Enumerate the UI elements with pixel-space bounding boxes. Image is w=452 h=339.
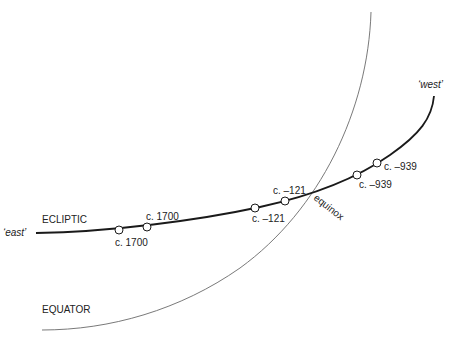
marker-label: c. 1700 [146, 211, 179, 222]
marker-circle [251, 204, 259, 212]
marker-label: c. –939 [384, 161, 417, 172]
marker-label: c. –121 [273, 185, 306, 196]
east-label: ‘east’ [3, 227, 27, 238]
west-label: ‘west’ [418, 79, 444, 90]
marker-label: c. 1700 [115, 237, 148, 248]
marker-label: c. –121 [252, 213, 285, 224]
ecliptic-label: ECLIPTIC [42, 214, 87, 225]
equinox-label: equinox [312, 192, 346, 222]
marker-circle [115, 226, 123, 234]
ecliptic-equator-diagram: ECLIPTIC EQUATOR ‘east’ ‘west’ equinox c… [0, 0, 452, 339]
equator-label: EQUATOR [42, 304, 91, 315]
marker-circle [353, 171, 361, 179]
marker-label: c. –939 [359, 179, 392, 190]
equator-curve [42, 12, 371, 330]
marker-circle [373, 159, 381, 167]
marker-circle [143, 223, 151, 231]
marker-circle [281, 197, 289, 205]
